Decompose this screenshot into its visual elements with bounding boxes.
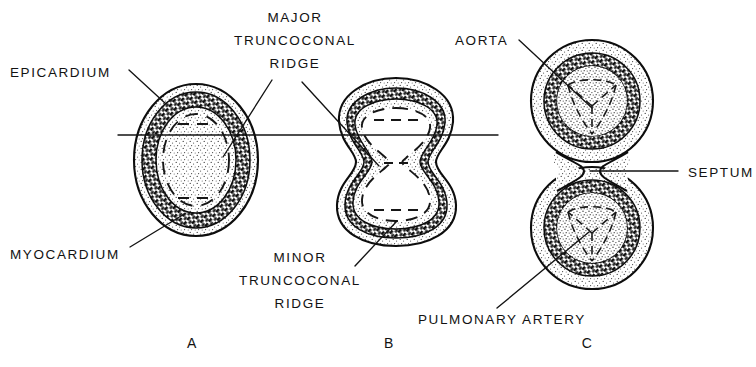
figure-canvas: EPICARDIUM MYOCARDIUM MAJOR TRUNCOCONAL … — [0, 0, 756, 367]
label-major-ridge-line3: RIDGE — [270, 56, 321, 71]
label-aorta: AORTA — [455, 33, 508, 48]
label-minor-ridge-line1: MINOR — [274, 250, 327, 265]
panel-letter-a: A — [187, 335, 197, 351]
label-minor-ridge-line2: TRUNCOCONAL — [239, 273, 361, 288]
label-epicardium: EPICARDIUM — [10, 65, 111, 80]
label-pulmonary-artery: PULMONARY ARTERY — [418, 312, 586, 327]
label-myocardium: MYOCARDIUM — [10, 247, 120, 262]
panel-letter-b: B — [384, 335, 394, 351]
label-septum: SEPTUM — [688, 165, 754, 180]
label-minor-ridge-line3: RIDGE — [275, 296, 326, 311]
label-major-ridge-line2: TRUNCOCONAL — [234, 33, 356, 48]
label-major-ridge-line1: MAJOR — [267, 10, 322, 25]
anatomical-diagram: EPICARDIUM MYOCARDIUM MAJOR TRUNCOCONAL … — [0, 0, 756, 367]
panel-letter-c: C — [582, 335, 593, 351]
